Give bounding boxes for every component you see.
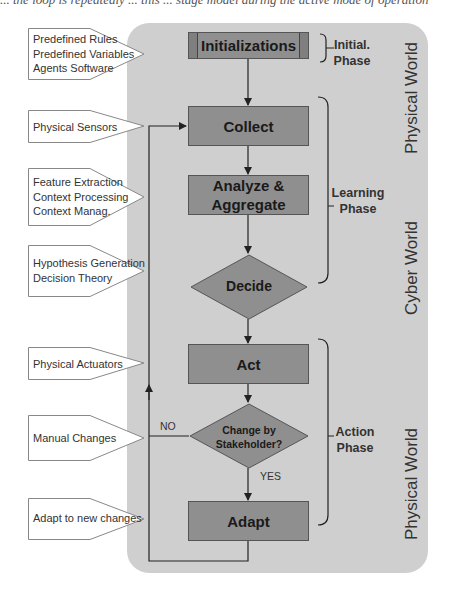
- yes-label: YES: [260, 470, 281, 482]
- collect-label: Collect: [223, 117, 273, 136]
- change-by-stakeholder-label: Change by Stakeholder?: [189, 423, 309, 451]
- act-node: Act: [188, 344, 309, 384]
- callout-line: Agents Software: [33, 61, 134, 76]
- collect-node: Collect: [188, 106, 309, 146]
- analyze-label: Analyze &: [213, 176, 285, 195]
- act-label: Act: [236, 355, 260, 374]
- callout-manual-changes: Manual Changes: [28, 415, 146, 461]
- phase-line: Initial.: [332, 37, 372, 53]
- callout-line: Context Processing: [33, 190, 128, 205]
- change-line-2: Stakeholder?: [189, 437, 309, 451]
- callout-line: Adapt to new changes: [33, 511, 142, 526]
- physical-world-top-label: Physical World: [402, 38, 422, 158]
- initial-phase-label: Initial. Phase: [332, 37, 372, 69]
- analyze-aggregate-node: Analyze & Aggregate: [188, 175, 309, 215]
- callout-physical-actuators: Physical Actuators: [28, 347, 146, 380]
- phase-line: Phase: [330, 201, 386, 217]
- callout-line: Physical Actuators: [33, 357, 123, 372]
- decide-label: Decide: [190, 278, 308, 294]
- callout-line: Feature Extraction: [33, 175, 128, 190]
- learning-phase-label: Learning Phase: [330, 185, 386, 217]
- aggregate-label: Aggregate: [211, 195, 285, 214]
- phase-line: Phase: [332, 440, 378, 456]
- physical-world-bottom-label: Physical World: [402, 424, 422, 544]
- cyber-world-label: Cyber World: [402, 218, 422, 318]
- phase-line: Action: [332, 424, 378, 440]
- initializations-label: Initializations: [201, 36, 296, 55]
- callout-initialization-inputs: Predefined Rules Predefined Variables Ag…: [28, 28, 146, 80]
- callout-physical-sensors: Physical Sensors: [28, 110, 146, 143]
- phase-line: Phase: [332, 53, 372, 69]
- callout-line: Decision Theory: [33, 271, 145, 286]
- callout-line: Predefined Rules: [33, 32, 134, 47]
- adapt-label: Adapt: [227, 512, 270, 531]
- callout-line: Predefined Variables: [33, 47, 134, 62]
- callout-line: Context Manag.: [33, 204, 128, 219]
- callout-line: Manual Changes: [33, 431, 116, 446]
- callout-hypothesis-generation: Hypothesis Generation Decision Theory: [28, 245, 146, 297]
- callout-adapt-to-new-changes: Adapt to new changes: [28, 498, 146, 540]
- initializations-node: Initializations: [188, 32, 309, 59]
- callout-feature-extraction: Feature Extraction Context Processing Co…: [28, 168, 146, 226]
- phase-line: Learning: [330, 185, 386, 201]
- no-label: NO: [160, 420, 176, 432]
- callout-line: Physical Sensors: [33, 120, 117, 135]
- action-phase-label: Action Phase: [332, 424, 378, 456]
- callout-line: Hypothesis Generation: [33, 256, 145, 271]
- adapt-node: Adapt: [188, 501, 309, 541]
- change-line-1: Change by: [189, 423, 309, 437]
